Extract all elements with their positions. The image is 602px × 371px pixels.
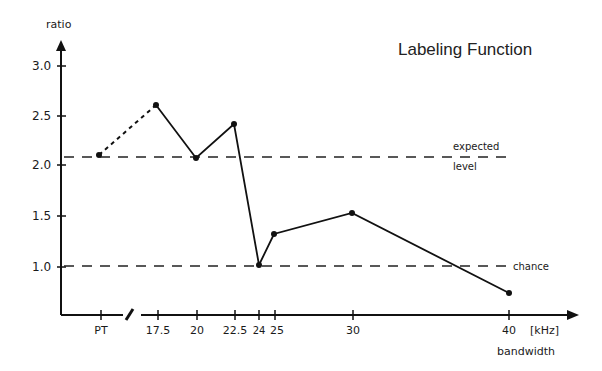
data-point	[231, 121, 237, 127]
data-point	[349, 210, 355, 216]
data-point	[271, 231, 277, 237]
x-tick-label: 30	[346, 324, 360, 337]
reference-lines: expected level chance	[64, 141, 549, 272]
y-tick-label: 1.0	[32, 260, 51, 274]
y-axis-label: ratio	[46, 18, 72, 31]
y-axis: ratio 3.0 2.5 2.0 1.5 1.0	[32, 18, 72, 315]
data-line	[156, 105, 509, 293]
data-point	[506, 290, 512, 296]
y-tick-label: 2.5	[32, 109, 51, 123]
x-tick-label: PT	[94, 324, 108, 337]
y-tick-label: 1.5	[32, 209, 51, 223]
data-point	[96, 152, 102, 158]
x-tick-label: 25	[270, 324, 284, 337]
x-axis-label: bandwidth	[497, 345, 555, 358]
x-tick-label: 20	[190, 324, 204, 337]
chart-title: Labeling Function	[398, 40, 532, 59]
data-point	[153, 102, 159, 108]
x-tick-label: 24	[253, 325, 266, 336]
x-tick-label: 40	[502, 324, 516, 337]
axis-break-icon	[126, 309, 133, 320]
x-tick-label: 17.5	[146, 324, 171, 337]
data-series	[96, 102, 512, 296]
y-axis-arrow-icon	[56, 40, 66, 51]
x-axis: PT 17.5 20 22.5 24 25 30 40 [kHz] bandwi…	[61, 309, 579, 358]
x-axis-unit: [kHz]	[530, 324, 559, 337]
expected-level-label: expected	[453, 141, 499, 152]
labeling-function-chart: Labeling Function ratio 3.0 2.5 2.0 1.5 …	[0, 0, 602, 371]
x-axis-arrow-icon	[567, 310, 579, 320]
y-tick-label: 2.0	[32, 158, 51, 172]
y-tick-label: 3.0	[32, 59, 51, 73]
data-point	[193, 155, 199, 161]
expected-level-label: level	[453, 161, 477, 172]
chance-label: chance	[513, 261, 549, 272]
x-tick-label: 22.5	[223, 324, 248, 337]
dashed-segment	[99, 105, 156, 155]
data-point	[256, 262, 262, 268]
